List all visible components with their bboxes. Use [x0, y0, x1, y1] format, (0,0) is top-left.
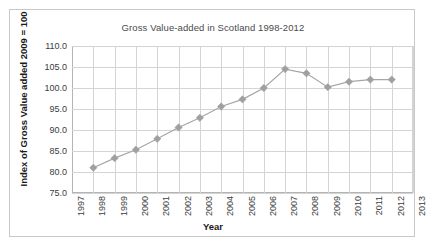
data-series-gva-index — [72, 46, 413, 193]
data-point-marker — [239, 96, 246, 103]
x-axis-tick-label: 2011 — [374, 196, 384, 215]
x-axis-tick-label: 2013 — [417, 196, 427, 216]
plot-area: 110.0105.0100.095.090.085.080.075.0 1997… — [72, 46, 413, 193]
x-axis-title: Year — [10, 221, 416, 232]
x-axis-tick-label: 1997 — [76, 196, 86, 216]
data-point-marker — [388, 76, 395, 83]
y-axis-tick-label: 85.0 — [49, 146, 67, 156]
x-axis-tick-label: 2012 — [396, 196, 406, 216]
x-axis-tick-label: 2001 — [161, 196, 171, 216]
x-axis-tick-label: 2004 — [225, 196, 235, 216]
x-axis-tick-label: 2009 — [332, 196, 342, 216]
data-point-marker — [154, 135, 161, 142]
y-axis-tick-label: 75.0 — [49, 188, 67, 198]
data-point-marker — [111, 154, 118, 161]
data-point-marker — [303, 70, 310, 77]
x-axis-tick-label: 2007 — [289, 196, 299, 216]
data-point-marker — [367, 76, 374, 83]
x-axis-tick-label: 2005 — [247, 196, 257, 216]
x-axis-tick-label: 2010 — [353, 196, 363, 216]
y-axis-tick-label: 80.0 — [49, 167, 67, 177]
data-point-marker — [196, 114, 203, 121]
y-axis-tick-label: 95.0 — [49, 104, 67, 114]
gridline-horizontal — [72, 193, 413, 194]
data-point-marker — [90, 164, 97, 171]
y-axis-tick-label: 90.0 — [49, 125, 67, 135]
data-point-marker — [132, 146, 139, 153]
data-point-marker — [175, 124, 182, 131]
x-axis-tick-label: 2002 — [183, 196, 193, 216]
x-axis-tick-label: 1999 — [119, 196, 129, 216]
data-point-marker — [345, 78, 352, 85]
chart-title: Gross Value-added in Scotland 1998-2012 — [10, 22, 416, 33]
series-line — [93, 69, 391, 168]
gridline-vertical — [413, 46, 414, 193]
y-axis-tick-label: 100.0 — [44, 83, 67, 93]
x-axis-tick-label: 2000 — [140, 196, 150, 216]
x-axis-tick-label: 2003 — [204, 196, 214, 216]
chart-frame: Gross Value-added in Scotland 1998-2012 … — [9, 9, 415, 237]
y-axis-tick-label: 110.0 — [45, 41, 67, 51]
x-axis-tick-label: 2008 — [310, 196, 320, 216]
x-axis-tick-label: 1998 — [97, 196, 107, 216]
y-axis-title: Index of Gross Value added 2009 = 100 — [18, 17, 29, 187]
data-point-marker — [218, 103, 225, 110]
x-axis-tick-label: 2006 — [268, 196, 278, 216]
y-axis-tick-label: 105.0 — [44, 62, 67, 72]
data-point-marker — [324, 83, 331, 90]
